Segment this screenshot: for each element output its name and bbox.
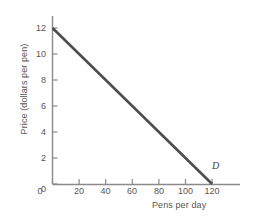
y-tick-label-6: 6 [30, 101, 46, 111]
y-tick-label-4: 4 [30, 127, 46, 137]
y-tick-label-10: 10 [30, 49, 46, 59]
demand-curve-chart: 12 10 8 6 4 2 0 0 20 40 60 80 100 120 Pr… [0, 0, 253, 219]
x-tick-label-0: 0 [28, 186, 52, 196]
x-tick-label-40: 40 [94, 186, 118, 196]
y-tick-label-2: 2 [30, 153, 46, 163]
y-tick-label-12: 12 [30, 23, 46, 33]
x-tick-label-120: 120 [200, 186, 224, 196]
x-tick-label-80: 80 [147, 186, 171, 196]
x-axis-title: Pens per day [152, 200, 206, 210]
x-tick-label-20: 20 [67, 186, 91, 196]
x-tick-label-60: 60 [120, 186, 144, 196]
y-axis-title: Price (dollars per pen) [19, 9, 29, 169]
y-tick-label-8: 8 [30, 75, 46, 85]
demand-curve-label: D [212, 160, 219, 171]
x-tick-label-100: 100 [174, 186, 198, 196]
